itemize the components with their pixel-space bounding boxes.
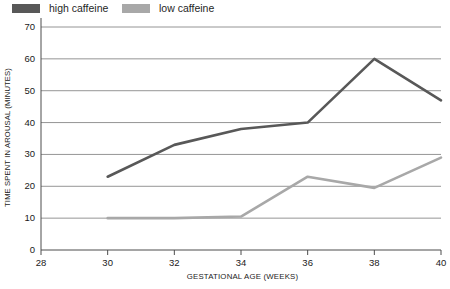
y-tick-label: 50 xyxy=(9,86,35,96)
x-axis-ticks xyxy=(41,250,441,255)
x-tick-label: 32 xyxy=(159,258,189,268)
gridlines xyxy=(41,27,441,218)
x-axis-title-text: GESTATIONAL AGE (WEEKS) xyxy=(187,272,298,281)
x-tick-label: 38 xyxy=(359,258,389,268)
x-tick-label: 36 xyxy=(293,258,323,268)
y-tick-label: 30 xyxy=(9,149,35,159)
plot-area: 010203040506070 28303234363840 xyxy=(0,0,450,289)
y-tick-label: 10 xyxy=(9,213,35,223)
y-tick-label: 0 xyxy=(9,245,35,255)
y-tick-label: 40 xyxy=(9,118,35,128)
y-tick-label: 20 xyxy=(9,181,35,191)
x-tick-label: 34 xyxy=(226,258,256,268)
caffeine-arousal-line-chart: high caffeine low caffeine TIME SPENT IN… xyxy=(0,0,450,289)
y-tick-label: 60 xyxy=(9,54,35,64)
x-tick-label: 30 xyxy=(93,258,123,268)
x-tick-label: 40 xyxy=(426,258,450,268)
y-tick-label: 70 xyxy=(9,22,35,32)
x-axis-title: GESTATIONAL AGE (WEEKS) xyxy=(40,272,445,281)
plot-svg xyxy=(0,0,450,289)
data-series xyxy=(108,59,441,218)
series-line-low-caffeine xyxy=(108,158,441,219)
series-line-high-caffeine xyxy=(108,59,441,177)
x-tick-label: 28 xyxy=(26,258,56,268)
